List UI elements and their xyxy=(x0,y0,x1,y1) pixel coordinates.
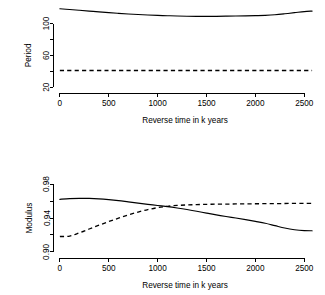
x-axis-title: Reverse time in k years xyxy=(142,281,228,290)
modulus-series-group xyxy=(60,198,312,236)
period-y-axis: 2060100 xyxy=(43,16,54,92)
x-tick-label: 1500 xyxy=(197,99,216,108)
y-tick-label: 100 xyxy=(43,16,52,30)
chart-panel-period: 2060100 05001000150020002500 Reverse tim… xyxy=(0,0,325,148)
modulus-x-axis: 05001000150020002500 xyxy=(58,258,314,273)
x-tick-label: 0 xyxy=(58,99,63,108)
period-plot: 2060100 05001000150020002500 Reverse tim… xyxy=(0,0,325,148)
chart-panel-modulus: 0.900.940.98 05001000150020002500 Revers… xyxy=(0,147,325,295)
x-tick-label: 2500 xyxy=(295,99,314,108)
y-tick-label: 0.94 xyxy=(43,210,52,226)
y-axis-title: Period xyxy=(25,43,34,67)
series-modulus-dashed xyxy=(60,203,312,236)
y-axis-title: Modulus xyxy=(25,203,34,234)
y-tick-label: 60 xyxy=(43,50,52,60)
two-panel-figure: 2060100 05001000150020002500 Reverse tim… xyxy=(0,0,325,295)
series-period-solid xyxy=(60,9,312,17)
x-tick-label: 0 xyxy=(58,264,63,273)
x-axis-title: Reverse time in k years xyxy=(142,116,228,125)
x-tick-label: 1000 xyxy=(149,99,168,108)
x-tick-label: 2500 xyxy=(295,264,314,273)
modulus-plot: 0.900.940.98 05001000150020002500 Revers… xyxy=(0,147,325,295)
x-tick-label: 1500 xyxy=(197,264,216,273)
x-tick-label: 2000 xyxy=(246,264,265,273)
x-tick-label: 1000 xyxy=(149,264,168,273)
y-tick-label: 20 xyxy=(43,82,52,92)
x-tick-label: 2000 xyxy=(246,99,265,108)
period-series-group xyxy=(60,9,312,71)
y-tick-label: 0.98 xyxy=(43,176,52,192)
period-x-axis: 05001000150020002500 xyxy=(58,93,314,108)
modulus-y-axis: 0.900.940.98 xyxy=(43,176,54,260)
period-label-group: Reverse time in k yearsPeriod xyxy=(25,43,228,125)
y-tick-label: 0.90 xyxy=(43,244,52,260)
x-tick-label: 500 xyxy=(102,99,116,108)
x-tick-label: 500 xyxy=(102,264,116,273)
